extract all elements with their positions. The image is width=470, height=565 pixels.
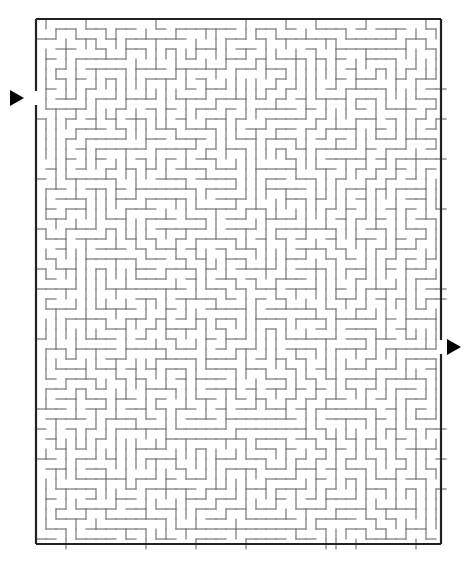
maze-walls — [36, 19, 446, 549]
start-arrow-icon — [10, 90, 24, 106]
finish-arrow-icon — [447, 339, 461, 355]
maze-border — [36, 19, 441, 544]
maze — [0, 0, 470, 565]
